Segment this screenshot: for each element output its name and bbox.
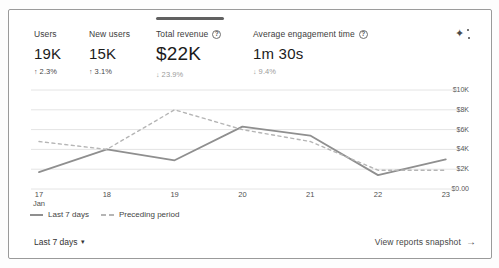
x-axis-tick-label: 19 <box>165 190 185 199</box>
preceding-period-line <box>39 110 446 170</box>
chart-legend: Last 7 days Preceding period <box>30 210 179 219</box>
legend-last-7-days: Last 7 days <box>30 210 89 219</box>
legend-preceding-period: Preceding period <box>101 210 179 219</box>
month-label: Jan <box>29 199 49 208</box>
x-axis-tick-label: 23 <box>436 190 456 199</box>
last-7-days-line <box>39 127 446 176</box>
line-chart: $0.00$2K$4K$6K$8K$10K17181920212223Jan <box>9 10 493 260</box>
analytics-overview-card: Users 19K ↑2.3% New users 15K ↑3.1% Tota… <box>8 9 492 259</box>
chevron-down-icon: ▾ <box>81 238 85 246</box>
page: Users 19K ↑2.3% New users 15K ↑3.1% Tota… <box>0 0 499 268</box>
arrow-right-icon: → <box>466 237 476 247</box>
dashed-line-marker <box>101 214 114 216</box>
view-reports-snapshot-link[interactable]: View reports snapshot → <box>375 237 476 247</box>
x-axis-tick-label: 22 <box>368 190 388 199</box>
x-axis-tick-label: 20 <box>232 190 252 199</box>
x-axis-tick-label: 18 <box>97 190 117 199</box>
chart-canvas <box>9 10 493 260</box>
date-range-dropdown[interactable]: Last 7 days ▾ <box>34 237 85 247</box>
x-axis-tick-label: 17 <box>29 190 49 199</box>
solid-line-marker <box>30 214 43 216</box>
x-axis-tick-label: 21 <box>300 190 320 199</box>
